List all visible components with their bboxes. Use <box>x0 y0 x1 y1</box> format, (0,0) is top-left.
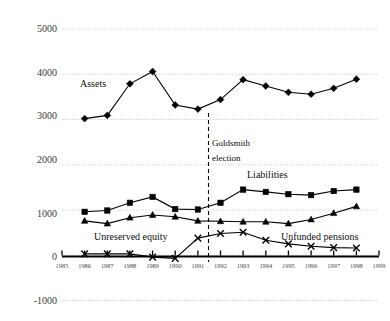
x-tick-label-1993: 1993 <box>237 262 250 269</box>
series-label-unfunded-pensions: Unfunded pensions <box>281 231 359 242</box>
x-tick-label-1990: 1990 <box>169 262 182 269</box>
data-point <box>263 189 268 194</box>
x-tick-label-1986: 1986 <box>78 262 91 269</box>
y-tick-5000: 5000 <box>37 23 57 34</box>
y-tick-0: 0 <box>52 251 57 262</box>
chart-background <box>0 0 390 321</box>
y-tick-minus-1000: -1000 <box>34 295 57 306</box>
y-tick-2000: 2000 <box>37 154 57 165</box>
data-point <box>240 187 245 192</box>
data-point <box>173 206 178 211</box>
x-tick-label-1992: 1992 <box>214 262 227 269</box>
series-label-assets: Assets <box>80 78 106 89</box>
data-point <box>127 200 132 205</box>
data-point <box>286 192 291 197</box>
data-point <box>82 209 87 214</box>
x-tick-label-1997: 1997 <box>327 262 341 269</box>
x-tick-label-1989: 1989 <box>146 262 159 269</box>
series-label-liabilities: Liabilities <box>247 169 288 180</box>
y-tick-1000: 1000 <box>37 208 57 219</box>
x-tick-label-1994: 1994 <box>259 262 273 269</box>
y-tick-4000: 4000 <box>37 67 57 78</box>
data-point <box>354 187 359 192</box>
data-point <box>218 200 223 205</box>
chart-canvas: 5000 4000 3000 2000 1000 0 -1000 1985198… <box>0 0 390 321</box>
x-tick-label-1998: 1998 <box>350 262 363 269</box>
series-label-unreserved-equity: Unreserved equity <box>94 231 168 242</box>
goldsmith-election-label-line1: Goldsmith <box>212 138 251 148</box>
x-tick-label-1987: 1987 <box>101 262 115 269</box>
data-point <box>105 208 110 213</box>
x-tick-label-1999: 1999 <box>373 262 386 269</box>
data-point <box>331 188 336 193</box>
goldsmith-election-label-line2: election <box>212 153 241 163</box>
x-tick-label-1996: 1996 <box>305 262 318 269</box>
x-tick-label-1991: 1991 <box>192 262 205 269</box>
x-tick-label-1988: 1988 <box>124 262 137 269</box>
data-point <box>195 207 200 212</box>
y-tick-3000: 3000 <box>37 110 57 121</box>
x-tick-label-1995: 1995 <box>282 262 295 269</box>
x-tick-label-1985: 1985 <box>56 262 69 269</box>
x-axis-tick-labels: 1985198619871988198919901991199219931994… <box>56 262 386 269</box>
data-point <box>150 194 155 199</box>
data-point <box>308 192 313 197</box>
financial-line-chart: 5000 4000 3000 2000 1000 0 -1000 1985198… <box>0 0 390 321</box>
